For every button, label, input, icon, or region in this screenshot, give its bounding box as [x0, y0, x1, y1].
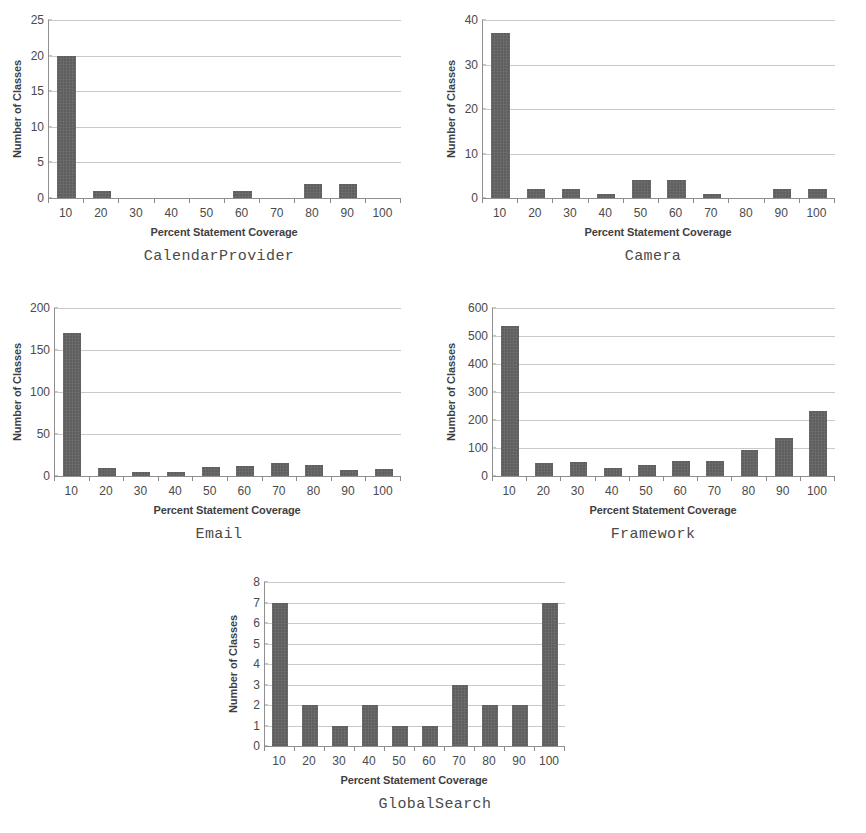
x-axis-title: Percent Statement Coverage — [48, 226, 400, 238]
x-tick-mark — [834, 199, 835, 203]
x-tick-label: 60 — [227, 484, 262, 498]
x-tick-mark — [400, 477, 401, 481]
x-tick-label: 10 — [492, 484, 526, 498]
bar-cell — [505, 582, 535, 746]
y-tick-label: 3 — [253, 678, 260, 692]
bar-cell — [765, 20, 800, 198]
x-tick-label: 90 — [330, 206, 365, 220]
bar-series — [493, 308, 835, 476]
x-tick-mark — [154, 199, 155, 203]
bar-cell — [355, 582, 385, 746]
y-tick-label: 10 — [465, 147, 478, 161]
bar — [741, 450, 759, 476]
x-tick-mark — [331, 477, 332, 481]
x-tick-label: 80 — [296, 484, 331, 498]
bar — [63, 333, 81, 476]
y-axis-title-text: Number of Classes — [445, 343, 457, 441]
bar-cell — [630, 308, 664, 476]
x-tick-label: 10 — [54, 484, 89, 498]
x-tick-mark — [474, 747, 475, 751]
x-axis-labels: 102030405060708090100 — [48, 206, 400, 220]
bar-cell — [561, 308, 595, 476]
y-tick-label: 200 — [468, 413, 488, 427]
bar — [638, 465, 656, 476]
x-tick-mark — [517, 199, 518, 203]
bar-cell — [90, 308, 125, 476]
y-tick-label: 7 — [253, 596, 260, 610]
bar-cell — [553, 20, 588, 198]
x-axis-title: Percent Statement Coverage — [492, 504, 834, 516]
bar — [706, 461, 724, 476]
bar-cell — [119, 20, 154, 198]
bar-cell — [493, 308, 527, 476]
bar-cell — [385, 582, 415, 746]
x-tick-mark — [560, 477, 561, 481]
x-tick-label: 10 — [264, 754, 294, 768]
bar-cell — [415, 582, 445, 746]
figure-grid: Number of Classes05101520251020304050607… — [0, 0, 866, 833]
x-tick-mark — [766, 477, 767, 481]
bar-cell — [295, 20, 330, 198]
x-tick-mark — [552, 199, 553, 203]
x-tick-label: 40 — [154, 206, 189, 220]
bar-cell — [483, 20, 518, 198]
x-tick-label: 10 — [482, 206, 517, 220]
chart-calendarprovider: Number of Classes05101520251020304050607… — [6, 4, 432, 258]
bar-cell — [589, 20, 624, 198]
x-tick-mark — [728, 199, 729, 203]
bar-cell — [698, 308, 732, 476]
x-tick-label: 40 — [588, 206, 623, 220]
y-tick-label: 100 — [468, 441, 488, 455]
bar — [808, 189, 826, 198]
x-tick-label: 50 — [629, 484, 663, 498]
y-tick-label: 0 — [471, 191, 478, 205]
y-tick-label: 400 — [468, 357, 488, 371]
bar — [527, 189, 545, 198]
x-tick-mark — [324, 747, 325, 751]
bar — [562, 189, 580, 198]
bar-cell — [49, 20, 84, 198]
x-axis-labels: 102030405060708090100 — [482, 206, 834, 220]
bar — [392, 726, 408, 747]
bar — [98, 468, 116, 476]
x-tick-mark — [629, 477, 630, 481]
x-tick-mark — [482, 199, 483, 203]
x-tick-mark — [400, 199, 401, 203]
x-tick-mark — [89, 477, 90, 481]
y-tick-label: 0 — [481, 469, 488, 483]
x-tick-label: 50 — [623, 206, 658, 220]
bar — [332, 726, 348, 747]
x-tick-label: 80 — [294, 206, 329, 220]
plot-area — [54, 308, 401, 477]
x-tick-label: 90 — [331, 484, 366, 498]
x-tick-mark — [764, 199, 765, 203]
bar-cell — [535, 582, 565, 746]
x-tick-label: 50 — [192, 484, 227, 498]
bar — [542, 603, 558, 747]
bar-cell — [325, 582, 355, 746]
x-axis-ticks — [482, 199, 834, 204]
bar — [304, 184, 322, 198]
bar-cell — [124, 308, 159, 476]
bar-cell — [228, 308, 263, 476]
x-axis-ticks — [264, 747, 564, 752]
bar — [597, 194, 615, 198]
x-tick-label: 40 — [158, 484, 193, 498]
bar-series — [49, 20, 401, 198]
x-tick-mark — [118, 199, 119, 203]
x-tick-mark — [595, 477, 596, 481]
x-tick-mark — [262, 477, 263, 481]
x-tick-mark — [54, 477, 55, 481]
bar-cell — [527, 308, 561, 476]
bar — [667, 180, 685, 198]
bar-cell — [190, 20, 225, 198]
y-tick-label: 25 — [31, 13, 44, 27]
bar — [491, 33, 509, 198]
x-tick-label: 30 — [123, 484, 158, 498]
x-tick-mark — [227, 477, 228, 481]
x-tick-mark — [365, 199, 366, 203]
bar-cell — [624, 20, 659, 198]
bar — [773, 189, 791, 198]
chart-camera: Number of Classes01020304010203040506070… — [440, 4, 866, 258]
x-tick-label: 100 — [800, 484, 834, 498]
